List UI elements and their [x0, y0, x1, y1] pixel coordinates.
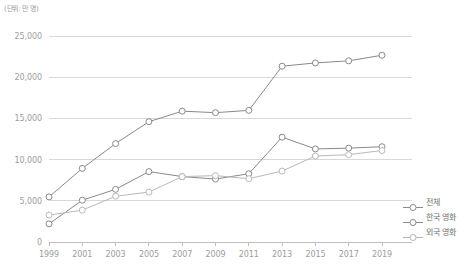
- data-point-marker: [113, 141, 119, 147]
- series-line: [49, 150, 382, 215]
- data-point-marker: [346, 152, 352, 158]
- data-point-marker: [213, 173, 219, 179]
- data-point-marker: [79, 207, 85, 213]
- data-point-marker: [346, 145, 352, 151]
- data-point-marker: [146, 169, 152, 175]
- legend-item-label: 외국 영화: [426, 226, 456, 237]
- data-point-marker: [46, 212, 52, 218]
- legend-item[interactable]: 한국 영화: [403, 209, 469, 224]
- data-point-marker: [179, 108, 185, 114]
- legend-item[interactable]: 전체: [403, 194, 469, 209]
- data-point-marker: [146, 189, 152, 195]
- data-point-marker: [246, 107, 252, 113]
- x-axis-ticks: [49, 242, 382, 246]
- legend-item[interactable]: 외국 영화: [403, 224, 469, 239]
- legend-item-label: 한국 영화: [426, 211, 456, 222]
- data-point-marker: [179, 174, 185, 180]
- data-point-marker: [213, 110, 219, 116]
- chart-legend: 전체한국 영화외국 영화: [403, 194, 469, 239]
- data-point-marker: [279, 134, 285, 140]
- data-point-marker: [312, 146, 318, 152]
- data-point-marker: [146, 119, 152, 125]
- line-chart: (단위: 만 명) 05,00010,00015,00020,00025,000…: [0, 0, 469, 272]
- data-point-marker: [379, 52, 385, 58]
- data-point-marker: [79, 165, 85, 171]
- data-point-marker: [113, 193, 119, 199]
- data-point-marker: [279, 168, 285, 174]
- data-point-marker: [46, 194, 52, 200]
- data-point-marker: [46, 221, 52, 227]
- plot-area: [0, 0, 469, 272]
- data-point-marker: [113, 186, 119, 192]
- open-circle-marker-icon: [403, 197, 423, 206]
- data-point-marker: [246, 176, 252, 182]
- data-point-marker: [79, 197, 85, 203]
- legend-item-label: 전체: [426, 196, 440, 207]
- data-point-marker: [312, 60, 318, 66]
- open-circle-marker-icon: [403, 212, 423, 221]
- open-circle-marker-icon: [403, 227, 423, 236]
- data-point-marker: [346, 58, 352, 64]
- data-point-marker: [312, 153, 318, 159]
- gridlines: [49, 36, 412, 242]
- data-point-marker: [379, 147, 385, 153]
- data-point-marker: [279, 63, 285, 69]
